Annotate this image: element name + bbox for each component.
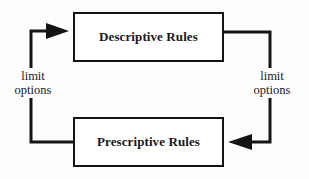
node-prescriptive-rules: Prescriptive Rules <box>73 117 224 167</box>
edge-label-right-line2: options <box>241 83 303 97</box>
edge-label-left-line2: options <box>2 83 64 97</box>
arrowhead-left-icon <box>228 134 252 150</box>
node-prescriptive-rules-label: Prescriptive Rules <box>97 134 200 150</box>
node-descriptive-rules-label: Descriptive Rules <box>99 29 198 45</box>
cycle-diagram: Descriptive Rules Prescriptive Rules lim… <box>0 0 309 179</box>
edge-label-left-line1: limit <box>2 69 64 83</box>
edge-label-left: limit options <box>0 68 66 98</box>
node-descriptive-rules: Descriptive Rules <box>73 12 224 62</box>
edge-label-right: limit options <box>239 68 305 98</box>
arrowhead-right-icon <box>46 23 69 39</box>
edge-label-right-line1: limit <box>241 69 303 83</box>
